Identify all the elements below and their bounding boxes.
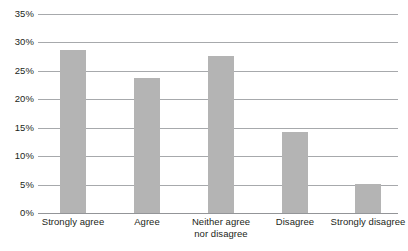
y-axis-tick-label-30: 30% bbox=[0, 37, 34, 47]
bar-neither[interactable] bbox=[208, 56, 234, 213]
axis-baseline bbox=[38, 213, 398, 214]
y-axis-tick-label-5: 5% bbox=[0, 180, 34, 190]
bars-layer bbox=[38, 14, 398, 213]
bar-strongly-agree[interactable] bbox=[60, 50, 86, 213]
bar-strongly-disagree[interactable] bbox=[355, 184, 381, 213]
bar-chart: 35% 30% 25% 20% 15% 10% 5% 0% Strongly a… bbox=[0, 0, 408, 251]
bar-agree[interactable] bbox=[134, 78, 160, 213]
bar-disagree[interactable] bbox=[282, 132, 308, 213]
y-axis-tick-label-25: 25% bbox=[0, 66, 34, 76]
y-axis-tick-label-15: 15% bbox=[0, 123, 34, 133]
y-axis-tick-label-10: 10% bbox=[0, 151, 34, 161]
x-axis-label-line-1: Agree bbox=[134, 216, 160, 227]
y-axis-tick-label-35: 35% bbox=[0, 9, 34, 19]
x-axis-label-line-1: Strongly disagree bbox=[331, 216, 406, 227]
x-axis-label-line-2: nor disagree bbox=[166, 228, 276, 240]
x-axis-label-strongly-disagree: Strongly disagree bbox=[313, 216, 408, 228]
y-axis-tick-label-20: 20% bbox=[0, 94, 34, 104]
x-axis-labels: Strongly agree Agree Neither agree nor d… bbox=[38, 216, 398, 251]
x-axis-label-line-1: Disagree bbox=[276, 216, 314, 227]
